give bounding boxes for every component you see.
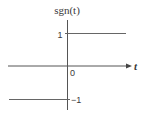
y-tick-label-minus-one: −1 <box>71 95 81 105</box>
origin-label: 0 <box>70 68 75 78</box>
y-tick-label-one: 1 <box>57 30 62 40</box>
signum-function-diagram: sgn(t) 1 0 −1 t <box>0 0 143 117</box>
signum-plot: sgn(t) 1 0 −1 t <box>0 0 143 117</box>
t-axis-arrow-icon <box>126 64 132 69</box>
plot-title: sgn(t) <box>54 4 80 17</box>
x-axis-label: t <box>134 60 138 72</box>
